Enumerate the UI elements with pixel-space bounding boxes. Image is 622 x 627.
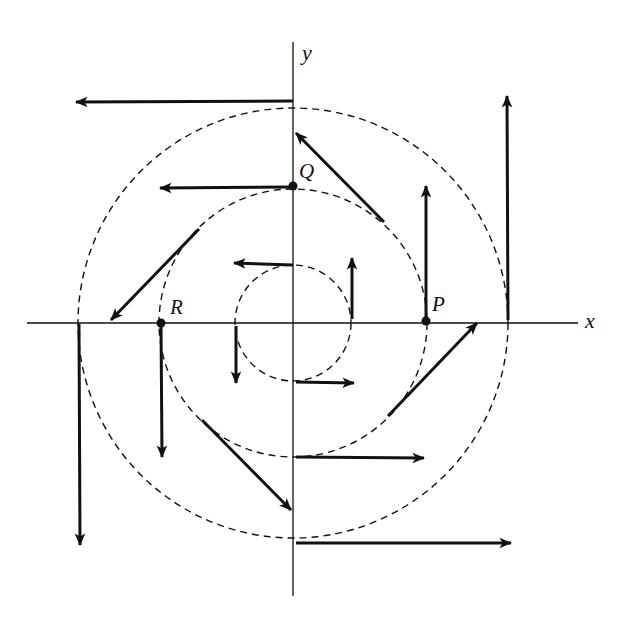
point-q-label: Q (299, 159, 314, 183)
point-p-dot (422, 317, 431, 326)
vector-field-diagram: PQR x y (0, 0, 622, 627)
vector-arrow-middle (296, 457, 424, 458)
point-r-dot (157, 319, 166, 328)
x-axis-label: x (584, 308, 595, 333)
vector-arrow-middle (388, 323, 477, 416)
vector-arrow-middle (111, 229, 199, 320)
vector-arrow-middle (160, 187, 293, 188)
vector-arrow-middle (161, 324, 162, 457)
point-q-dot (289, 182, 298, 191)
vector-arrow-outer (76, 101, 293, 102)
vector-arrow-inner (296, 382, 354, 383)
vector-arrow-middle (202, 420, 291, 510)
y-axis-label: y (300, 40, 312, 65)
axes-layer (27, 42, 578, 596)
vector-arrow-outer (507, 96, 508, 320)
point-r-label: R (169, 295, 183, 319)
vector-arrow-inner (234, 263, 293, 265)
points-layer: PQR (157, 159, 446, 328)
vector-arrow-outer (79, 324, 80, 545)
point-p-label: P (431, 292, 445, 316)
